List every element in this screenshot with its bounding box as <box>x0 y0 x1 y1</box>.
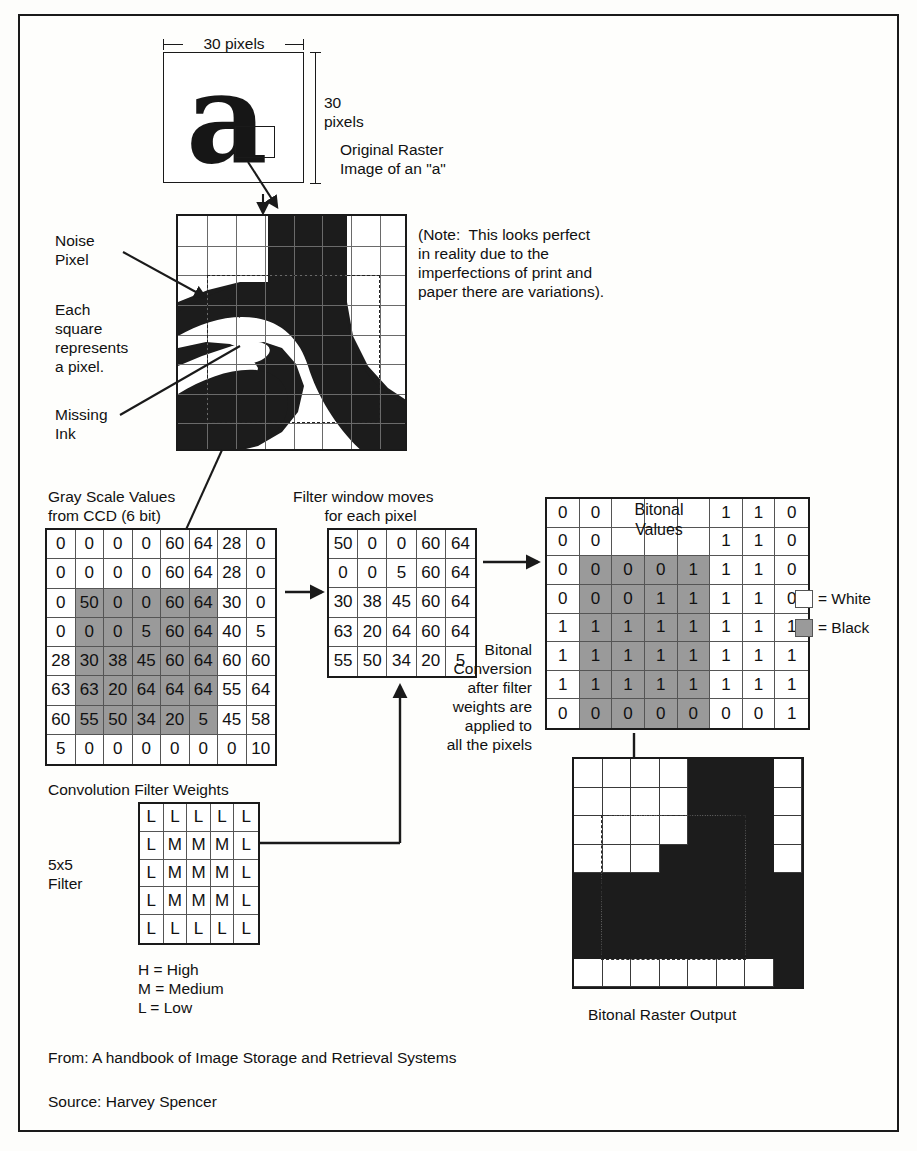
bitonal-output-cell <box>603 788 632 817</box>
bitonal-output-cell <box>660 959 689 988</box>
bitonal-output-cell <box>745 873 774 902</box>
bitonal-output-cell <box>774 759 803 788</box>
bitonal-output-cell <box>603 873 632 902</box>
bitonal-output-cell <box>688 816 717 845</box>
bitonal-output-cell <box>574 788 603 817</box>
bitonal-output-cell <box>688 788 717 817</box>
bitonal-output-cell <box>631 873 660 902</box>
bitonal-output-cell <box>745 816 774 845</box>
bitonal-output-cell <box>631 845 660 874</box>
bitonal-output-cell <box>745 959 774 988</box>
bitonal-output-cell <box>688 930 717 959</box>
bitonal-output-caption: Bitonal Raster Output <box>588 1005 736 1024</box>
bitonal-output-cell <box>774 873 803 902</box>
bitonal-output-cell <box>631 788 660 817</box>
figure-page: 30 pixels a 30 pixels Original Raster Im… <box>0 0 917 1151</box>
bitonal-output-cell <box>574 816 603 845</box>
bitonal-output-cell <box>745 902 774 931</box>
bitonal-output-cell <box>660 930 689 959</box>
bitonal-output-cell <box>603 930 632 959</box>
bitonal-output-cell <box>688 845 717 874</box>
bitonal-output-cell <box>603 845 632 874</box>
bitonal-output-cell <box>717 759 746 788</box>
bitonal-output-cell <box>774 959 803 988</box>
bitonal-output-cell <box>631 959 660 988</box>
bitonal-output-cell <box>774 816 803 845</box>
bitonal-output-cell <box>774 845 803 874</box>
bitonal-output-cell <box>660 902 689 931</box>
legend-white-swatch <box>795 590 813 608</box>
bitonal-output-cell <box>660 816 689 845</box>
bitonal-output-cell <box>688 902 717 931</box>
bitonal-output-cell <box>574 959 603 988</box>
bitonal-output-cell <box>631 816 660 845</box>
bitonal-output-cell <box>688 759 717 788</box>
legend-black-swatch <box>795 619 813 637</box>
bitonal-output-cell <box>774 930 803 959</box>
bitonal-output-cell <box>717 959 746 988</box>
bitonal-output-cell <box>574 845 603 874</box>
bitonal-output-cell <box>631 930 660 959</box>
bitonal-raster-output <box>572 757 804 989</box>
bitonal-output-cell <box>717 788 746 817</box>
bitonal-output-cell <box>574 873 603 902</box>
bitonal-output-cell <box>774 902 803 931</box>
bitonal-output-cell <box>631 902 660 931</box>
bitonal-output-cell <box>574 759 603 788</box>
bitonal-output-cell <box>603 959 632 988</box>
source-author-caption: Source: Harvey Spencer <box>48 1092 217 1111</box>
bitonal-output-cell <box>774 788 803 817</box>
source-handbook-caption: From: A handbook of Image Storage and Re… <box>48 1048 456 1067</box>
bitonal-output-cell <box>745 845 774 874</box>
bitonal-output-cell <box>745 759 774 788</box>
bitonal-output-cell <box>574 902 603 931</box>
bitonal-output-cell <box>660 759 689 788</box>
bitonal-output-cell <box>745 930 774 959</box>
bitonal-output-cell <box>717 816 746 845</box>
bitonal-output-cell <box>717 902 746 931</box>
bitonal-output-cell <box>745 788 774 817</box>
bitonal-output-cell <box>603 816 632 845</box>
bitonal-output-cell <box>688 959 717 988</box>
bitonal-output-cell <box>603 902 632 931</box>
bitonal-output-cell <box>631 759 660 788</box>
bitonal-output-cell <box>660 845 689 874</box>
bitonal-output-cell <box>717 873 746 902</box>
bitonal-output-cell <box>574 930 603 959</box>
bitonal-output-cell <box>603 759 632 788</box>
bitonal-output-cell <box>660 788 689 817</box>
bitonal-output-cell <box>660 873 689 902</box>
bitonal-output-cell <box>688 873 717 902</box>
bitonal-output-cell <box>717 930 746 959</box>
bitonal-output-cell <box>717 845 746 874</box>
